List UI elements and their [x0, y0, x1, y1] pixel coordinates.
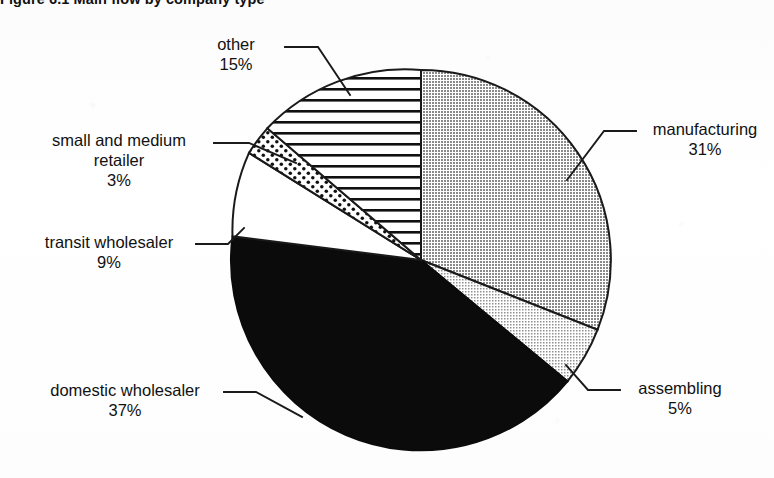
callout-small-and-medium-retailer: small and medium retailer 3% — [24, 130, 214, 190]
callout-manufacturing: manufacturing 31% — [640, 119, 770, 159]
callout-assembling-name: assembling — [624, 378, 736, 398]
callout-manufacturing-percent: 31% — [640, 139, 770, 159]
callout-domestic-wholesaler: domestic wholesaler 37% — [26, 380, 224, 420]
callout-assembling: assembling 5% — [624, 378, 736, 418]
callout-small-and-medium-retailer-name-line2: retailer — [24, 150, 214, 170]
callout-other-name: other — [184, 34, 288, 54]
pie-slices — [231, 69, 611, 450]
callout-transit-wholesaler: transit wholesaler 9% — [22, 232, 196, 272]
callout-transit-wholesaler-percent: 9% — [22, 252, 196, 272]
callout-small-and-medium-retailer-percent: 3% — [24, 170, 214, 190]
callout-manufacturing-name: manufacturing — [640, 119, 770, 139]
callout-other-percent: 15% — [184, 54, 288, 74]
callout-transit-wholesaler-name: transit wholesaler — [22, 232, 196, 252]
callout-domestic-wholesaler-percent: 37% — [26, 400, 224, 420]
callout-other: other 15% — [184, 34, 288, 74]
callout-domestic-wholesaler-name: domestic wholesaler — [26, 380, 224, 400]
callout-assembling-percent: 5% — [624, 398, 736, 418]
figure-page: Figure 6.1 Main flow by company type — [0, 0, 774, 478]
callout-small-and-medium-retailer-name-line1: small and medium — [24, 130, 214, 150]
